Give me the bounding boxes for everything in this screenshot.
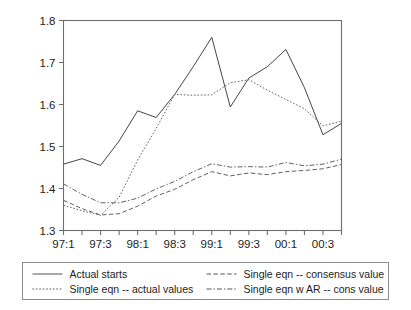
x-tick-label: 99:3 [238, 238, 260, 250]
x-tick-label: 98:1 [126, 238, 148, 250]
x-tick-label: 00:3 [312, 238, 334, 250]
x-tick-label: 97:1 [52, 238, 74, 250]
legend-label: Actual starts [70, 268, 128, 280]
legend-item: Single eqn -- actual values [33, 283, 194, 295]
series-group [64, 37, 342, 215]
y-axis: 1.31.41.51.61.71.8 [40, 15, 64, 237]
series-line [64, 80, 342, 216]
chart-figure: 1.31.41.51.61.71.897:197:398:198:399:199… [0, 0, 411, 310]
x-tick-label: 99:1 [201, 238, 223, 250]
x-tick-label: 00:1 [275, 238, 297, 250]
x-tick-label: 97:3 [89, 238, 111, 250]
series-line [64, 37, 342, 165]
legend-label: Single eqn -- actual values [70, 283, 194, 295]
y-tick-label: 1.3 [40, 225, 56, 237]
x-tick-label: 98:3 [164, 238, 186, 250]
series-line [64, 159, 342, 203]
line-chart: 1.31.41.51.61.71.897:197:398:198:399:199… [0, 0, 411, 310]
legend-item: Actual starts [33, 268, 128, 280]
y-tick-label: 1.8 [40, 15, 56, 27]
y-tick-label: 1.4 [40, 183, 57, 195]
y-tick-label: 1.5 [40, 141, 56, 153]
legend-item: Single eqn w AR -- cons value [207, 283, 384, 295]
legend-label: Single eqn -- consensus value [244, 268, 385, 280]
y-tick-label: 1.6 [40, 99, 56, 111]
x-axis: 97:197:398:198:399:199:300:100:3 [52, 231, 341, 250]
chart-legend: Actual startsSingle eqn -- consensus val… [23, 263, 389, 300]
series-line [64, 165, 342, 215]
y-tick-label: 1.7 [40, 57, 56, 69]
legend-label: Single eqn w AR -- cons value [244, 283, 384, 295]
legend-item: Single eqn -- consensus value [207, 268, 385, 280]
